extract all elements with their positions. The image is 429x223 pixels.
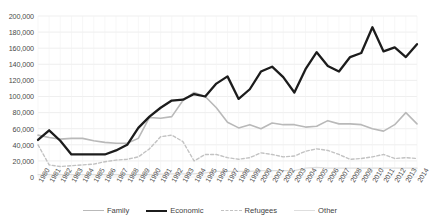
legend-label-other: Other	[318, 206, 337, 215]
y-tick-label: 60,000	[0, 125, 34, 134]
y-tick-label: 80,000	[0, 108, 34, 117]
y-tick-label: 160,000	[0, 44, 34, 53]
chart-legend: Family Economic Refugees Other	[0, 206, 420, 215]
legend-line-family-icon	[83, 210, 104, 211]
gridlines	[38, 16, 417, 177]
legend-label-economic: Economic	[170, 206, 203, 215]
y-tick-label: 120,000	[0, 76, 34, 85]
legend-line-refugees-icon	[221, 210, 242, 211]
legend-label-refugees: Refugees	[245, 206, 278, 215]
y-tick-label: 180,000	[0, 28, 34, 37]
y-tick-label: 140,000	[0, 60, 34, 69]
legend-item-refugees[interactable]: Refugees	[221, 206, 278, 215]
y-tick-label: 0	[0, 173, 34, 182]
y-tick-label: 40,000	[0, 141, 34, 150]
legend-item-family[interactable]: Family	[83, 206, 129, 215]
y-tick-label: 100,000	[0, 92, 34, 101]
legend-item-economic[interactable]: Economic	[146, 206, 203, 215]
legend-line-other-icon	[294, 210, 315, 211]
legend-line-economic-icon	[146, 210, 167, 212]
y-tick-label: 200,000	[0, 12, 34, 21]
legend-label-family: Family	[107, 206, 129, 215]
y-tick-label: 20,000	[0, 157, 34, 166]
legend-item-other[interactable]: Other	[294, 206, 337, 215]
